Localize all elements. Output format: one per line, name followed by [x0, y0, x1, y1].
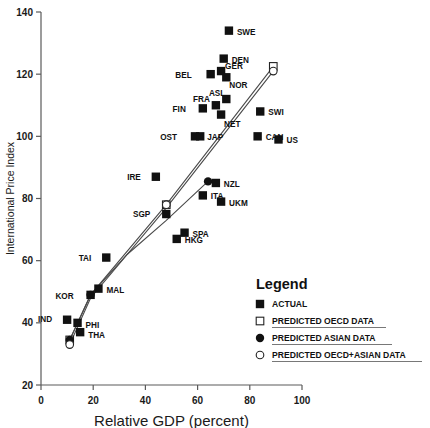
scatter-chart: 20406080100120140020406080100Relative GD…: [0, 0, 430, 428]
x-tick-label: 80: [244, 395, 256, 406]
x-tick-label: 0: [38, 395, 44, 406]
legend-label-3: PREDICTED OECD+ASIAN DATA: [272, 350, 406, 360]
point-label-TAI: TAI: [79, 254, 92, 263]
marker-SWE: [225, 26, 233, 34]
marker-predicted-oecd-asian-data: [66, 341, 74, 349]
point-label-US: US: [287, 136, 299, 145]
y-tick-label: 40: [22, 317, 34, 328]
marker-JAP: [196, 132, 204, 140]
legend-marker-1: [256, 317, 264, 325]
marker-BEL: [206, 70, 214, 78]
point-label-ASL: ASL: [209, 89, 225, 98]
marker-ITA: [199, 191, 207, 199]
marker-NET: [217, 110, 225, 118]
y-tick-label: 80: [22, 193, 34, 204]
legend-title: Legend: [256, 276, 308, 292]
marker-IND: [63, 316, 71, 324]
point-label-UKM: UKM: [229, 199, 248, 208]
point-label-BEL: BEL: [175, 71, 191, 80]
x-tick-label: 60: [192, 395, 204, 406]
y-tick-label: 60: [22, 255, 34, 266]
marker-HKG: [173, 235, 181, 243]
x-tick-label: 40: [140, 395, 152, 406]
point-label-SWE: SWE: [237, 28, 256, 37]
x-tick-label: 100: [294, 395, 311, 406]
x-axis-title: Relative GDP (percent): [94, 412, 249, 428]
marker-NOR: [222, 73, 230, 81]
point-labels: SWEDENGERNORBELASLFRAFINNETSWICANUSOSTJA…: [38, 28, 298, 341]
point-label-HKG: HKG: [185, 236, 203, 245]
point-label-NZL: NZL: [224, 180, 240, 189]
point-label-PHI: PHI: [86, 321, 100, 330]
marker-predicted-oecd-asian-data: [269, 67, 277, 75]
data-points: [63, 26, 283, 348]
y-tick-label: 100: [16, 131, 33, 142]
point-label-SWI: SWI: [268, 108, 283, 117]
legend-label-0: ACTUAL: [272, 299, 307, 309]
y-tick-label: 120: [16, 69, 33, 80]
marker-THA: [76, 328, 84, 336]
point-label-CAN: CAN: [266, 133, 284, 142]
marker-predicted-asian-data: [204, 177, 212, 185]
legend-label-1: PREDICTED OECD DATA: [272, 316, 374, 326]
point-label-SGP: SGP: [133, 210, 151, 219]
y-tick-label: 140: [16, 7, 33, 18]
marker-MAL: [94, 284, 102, 292]
legend-marker-2: [256, 334, 264, 342]
x-tick-label: 20: [88, 395, 100, 406]
legend-marker-0: [256, 300, 264, 308]
marker-SWI: [256, 107, 264, 115]
legend-marker-3: [256, 351, 264, 359]
point-label-NET: NET: [224, 120, 240, 129]
point-label-IND: IND: [38, 315, 52, 324]
marker-FRA: [212, 101, 220, 109]
point-label-JAP: JAP: [207, 133, 223, 142]
point-label-IRE: IRE: [127, 173, 141, 182]
point-label-FIN: FIN: [173, 105, 186, 114]
marker-predicted-asian-data: [86, 291, 94, 299]
point-label-MAL: MAL: [106, 286, 124, 295]
marker-SGP: [162, 210, 170, 218]
y-tick-label: 20: [22, 380, 34, 391]
marker-CAN: [253, 132, 261, 140]
legend-label-2: PREDICTED ASIAN DATA: [272, 333, 375, 343]
marker-TAI: [102, 253, 110, 261]
chart-axes: 20406080100120140020406080100Relative GD…: [4, 7, 311, 428]
chart-legend: LegendACTUALPREDICTED OECD DATAPREDICTED…: [256, 276, 422, 362]
y-axis-title: International Price Index: [4, 141, 16, 255]
point-label-KOR: KOR: [55, 292, 73, 301]
marker-NZL: [212, 179, 220, 187]
point-label-THA: THA: [88, 331, 105, 340]
marker-predicted-oecd-asian-data: [162, 201, 170, 209]
marker-PHI: [73, 319, 81, 327]
oecd-asian-line: [70, 71, 274, 345]
point-label-NOR: NOR: [229, 81, 247, 90]
point-label-FRA: FRA: [193, 95, 210, 104]
marker-FIN: [199, 104, 207, 112]
marker-IRE: [152, 173, 160, 181]
point-label-ITA: ITA: [211, 192, 224, 201]
point-label-OST: OST: [160, 133, 177, 142]
point-label-GER: GER: [225, 62, 243, 71]
